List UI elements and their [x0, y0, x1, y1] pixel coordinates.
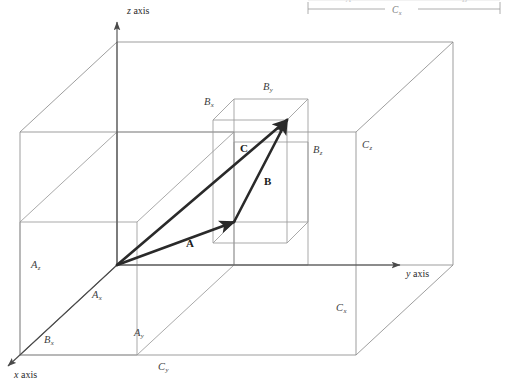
A-box-depth-tl: [20, 132, 117, 222]
component-label-Az: Az: [30, 259, 41, 271]
vector-label-B: B: [264, 175, 272, 187]
outer-edge-depth-tl: [20, 42, 117, 132]
inner-box-B: [213, 99, 308, 265]
component-label-Cx: Cx: [336, 302, 346, 314]
x-axis-label: x axis: [13, 369, 37, 380]
A-box-depth-br: [137, 265, 234, 355]
y-axis-label: y axis: [405, 268, 429, 279]
outer-edge-depth-br: [356, 265, 453, 355]
inner-box-A: [20, 132, 234, 355]
axes-group: [8, 22, 400, 366]
x-axis-line: [8, 265, 117, 366]
vector-addition-figure: Cx A B: [0, 0, 509, 383]
diagram-canvas: Cx A B: [0, 0, 509, 383]
B-box-depth-br: [287, 222, 308, 243]
component-label-Ax: Ax: [91, 289, 102, 301]
component-label-Ay: Ay: [133, 327, 145, 339]
component-label-Bx-upper: Bx: [204, 96, 214, 108]
component-label-Bz: Bz: [313, 144, 323, 156]
component-label-Cy: Cy: [158, 361, 169, 373]
cropped-figure-fragment: Cx A B: [308, 0, 500, 16]
outer-box-C: [20, 42, 453, 355]
component-label-Cz: Cz: [362, 139, 372, 151]
B-box-back-face-offsetless: [234, 142, 308, 265]
outer-edge-depth-tr: [356, 42, 453, 132]
vector-label-A: A: [186, 237, 194, 249]
component-label-By: By: [263, 81, 274, 93]
component-label-Bx: Bx: [44, 334, 54, 346]
vector-label-C: C: [240, 142, 248, 154]
B-box-depth-tl: [213, 99, 234, 120]
B-box-back-face: [234, 99, 308, 222]
fragment-label-Cx: Cx: [392, 5, 402, 16]
vector-B-arrow: [234, 120, 287, 222]
z-axis-label: z axis: [126, 5, 150, 16]
outer-box-back-face: [117, 42, 453, 265]
A-box-back-face: [117, 132, 234, 265]
fragment-label-faint-left: A: [345, 0, 351, 4]
fragment-label-faint-right: B: [462, 0, 467, 4]
vector-A-arrow: [117, 222, 234, 265]
B-box-depth-tr: [287, 99, 308, 120]
A-box-front-face: [20, 222, 137, 355]
